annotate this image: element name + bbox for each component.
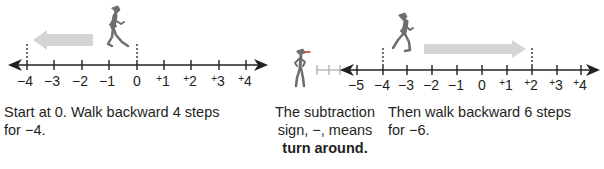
caption-then-line1: Then walk backward 6 steps [388, 103, 604, 121]
svg-text:−1: −1 [448, 77, 464, 93]
svg-text:+3: +3 [211, 73, 225, 89]
svg-text:−4: −4 [17, 73, 33, 89]
caption-turn-bold: turn around. [270, 139, 380, 157]
svg-text:+2: +2 [524, 77, 538, 93]
walking-figure-icon [108, 6, 128, 46]
number-line-right: −5 −4 −3 −2 −1 0 +1 +2 +3 +4 [340, 48, 600, 93]
svg-text:+2: +2 [183, 73, 197, 89]
value-negative-six: −6 [409, 122, 426, 138]
caption-then-line2: for −6. [388, 121, 604, 139]
svg-text:−4: −4 [374, 77, 390, 93]
svg-text:+4: +4 [573, 77, 587, 93]
caption-turn-line2: sign, −, means [270, 121, 380, 139]
value-negative-four: −4 [25, 122, 42, 138]
svg-text:0: 0 [133, 73, 141, 89]
svg-text:−5: −5 [348, 77, 364, 93]
walking-figure-icon [393, 13, 413, 51]
caption-start-line2: for −4. [4, 121, 274, 139]
svg-text:+3: +3 [549, 77, 563, 93]
motion-arrow-right-icon [424, 40, 526, 58]
svg-text:−3: −3 [44, 73, 60, 89]
tick-labels-right: −5 −4 −3 −2 −1 0 +1 +2 +3 +4 [348, 77, 587, 93]
caption-then: Then walk backward 6 steps for −6. [388, 103, 604, 139]
svg-text:+1: +1 [499, 77, 513, 93]
caption-start-line1: Start at 0. Walk backward 4 steps [4, 103, 274, 121]
svg-text:−2: −2 [72, 73, 88, 89]
turning-figure-icon [295, 49, 310, 86]
svg-text:0: 0 [478, 77, 486, 93]
svg-text:+1: +1 [156, 73, 170, 89]
svg-text:−2: −2 [423, 77, 439, 93]
svg-text:−3: −3 [398, 77, 414, 93]
caption-start: Start at 0. Walk backward 4 steps for −4… [4, 103, 274, 139]
svg-text:+4: +4 [238, 73, 252, 89]
caption-turn: The subtraction sign, −, means turn arou… [270, 103, 380, 157]
svg-text:−1: −1 [99, 73, 115, 89]
caption-turn-line1: The subtraction [270, 103, 380, 121]
motion-arrow-left-icon [33, 30, 93, 50]
number-line-left: −4 −3 −2 −1 0 +1 +2 +3 +4 [8, 44, 268, 89]
tick-labels-left: −4 −3 −2 −1 0 +1 +2 +3 +4 [17, 73, 252, 89]
